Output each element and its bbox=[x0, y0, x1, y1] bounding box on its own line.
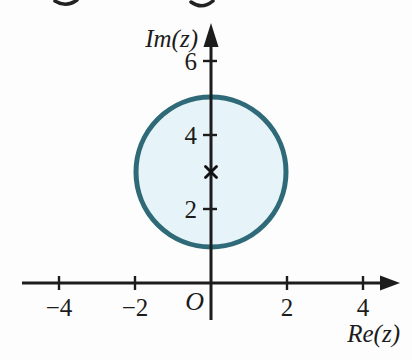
y-tick-label: 6 bbox=[185, 48, 198, 75]
x-tick-label: −2 bbox=[122, 294, 149, 321]
x-tick-label: −4 bbox=[46, 294, 73, 321]
y-axis-label: Im(z) bbox=[144, 25, 198, 53]
x-axis-label: Re(z) bbox=[346, 320, 400, 348]
x-tick-label: 2 bbox=[281, 294, 294, 321]
y-tick-label: 4 bbox=[185, 122, 198, 149]
origin-label: O bbox=[185, 287, 204, 316]
x-tick-label: 4 bbox=[357, 294, 370, 321]
y-tick-label: 2 bbox=[185, 196, 198, 223]
argand-diagram-figure: −4−224 246 Im(z) Re(z) O bbox=[0, 0, 412, 360]
